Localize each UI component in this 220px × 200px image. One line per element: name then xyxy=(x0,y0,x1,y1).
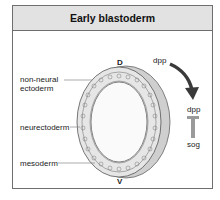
label-ectoderm: ectoderm xyxy=(20,84,53,93)
dpp-gradient-arrow xyxy=(170,64,192,90)
label-ventral: V xyxy=(117,177,122,186)
label-non-neural: non-neural xyxy=(20,75,58,84)
inhibition-stem-icon xyxy=(191,118,195,138)
label-neurectoderm: neurectoderm xyxy=(20,123,69,132)
label-arrow-dpp: dpp xyxy=(153,56,166,65)
blastoderm-illustration xyxy=(0,0,220,200)
label-inhibit-dpp: dpp xyxy=(187,105,200,114)
label-mesoderm: mesoderm xyxy=(20,159,58,168)
arrow-head-icon xyxy=(185,87,199,100)
yolk xyxy=(91,82,147,162)
label-sog: sog xyxy=(187,140,200,149)
label-dorsal: D xyxy=(117,58,123,67)
